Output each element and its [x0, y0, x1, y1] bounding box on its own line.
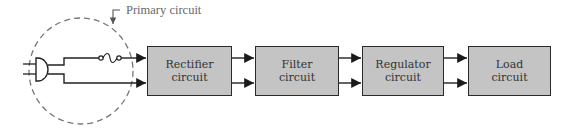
filter-circuit-block: Filter circuit	[255, 46, 339, 96]
callout-leader-icon	[113, 10, 120, 24]
block-label-line1: Rectifier	[166, 58, 214, 71]
plug-icon	[23, 58, 48, 81]
rectifier-circuit-block: Rectifier circuit	[147, 46, 232, 96]
regulator-circuit-block: Regulator circuit	[362, 46, 444, 96]
block-label-line1: Load	[491, 58, 527, 71]
filter-to-regulator-arrows	[338, 58, 361, 83]
block-label-line1: Regulator	[375, 58, 430, 71]
primary-circuit-label: Primary circuit	[126, 3, 201, 18]
block-label-line2: circuit	[166, 71, 214, 84]
fuse-icon	[99, 54, 121, 63]
block-label-line2: circuit	[491, 71, 527, 84]
rectifier-to-filter-arrows	[231, 58, 254, 83]
block-label-line2: circuit	[279, 71, 315, 84]
primary-wiring	[48, 58, 146, 83]
power-supply-block-diagram: Primary circuit Rectifier circuit Filter…	[0, 0, 571, 129]
regulator-to-load-arrows	[443, 58, 467, 83]
block-label-line2: circuit	[375, 71, 430, 84]
block-label-line1: Filter	[279, 58, 315, 71]
load-circuit-block: Load circuit	[468, 46, 551, 96]
